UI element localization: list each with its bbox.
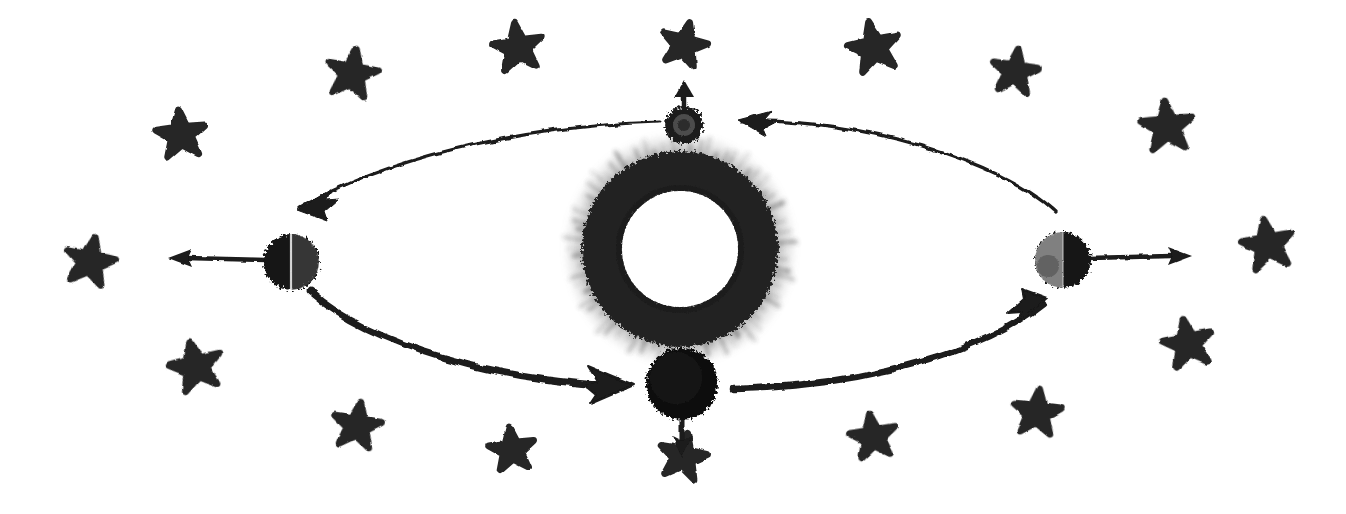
scene-canvas	[0, 0, 1346, 514]
moon-phase-diagram	[0, 0, 1346, 514]
moon-top-shading	[673, 114, 695, 136]
moon-bottom-shading	[650, 352, 702, 404]
sun-core	[622, 191, 738, 307]
sun	[562, 131, 798, 367]
